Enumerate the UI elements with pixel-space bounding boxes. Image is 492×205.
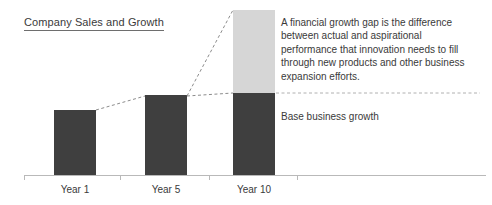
gap-description-text: A financial growth gap is the difference… bbox=[281, 16, 486, 83]
bar-year-10-gap bbox=[233, 10, 275, 93]
x-axis-label-year-10: Year 10 bbox=[224, 183, 284, 196]
gap-description-line: expansion efforts. bbox=[281, 70, 486, 83]
gap-description-line: between actual and aspirational bbox=[281, 29, 486, 42]
trend-segment-year1-to-year5 bbox=[96, 96, 145, 110]
bar-year-10-base bbox=[233, 93, 275, 175]
gap-description-line: performance that innovation needs to fil… bbox=[281, 43, 486, 56]
x-axis-tick bbox=[209, 176, 210, 180]
page-title: Company Sales and Growth bbox=[24, 15, 164, 31]
trend-segment-year5-to-year10-base bbox=[187, 93, 233, 96]
x-axis-line bbox=[24, 175, 486, 176]
bar-year-1-base bbox=[54, 110, 96, 175]
x-axis-tick bbox=[297, 176, 298, 180]
gap-description-line: A financial growth gap is the difference bbox=[281, 16, 486, 29]
x-axis-tick bbox=[120, 176, 121, 180]
slide-canvas: Company Sales and Growth Year 1 Year 5 Y… bbox=[0, 0, 492, 205]
gap-description-line: through new products and other business bbox=[281, 56, 486, 69]
trend-segment-aspirational bbox=[187, 10, 233, 96]
x-axis-tick bbox=[24, 176, 25, 180]
x-axis-label-year-5: Year 5 bbox=[136, 183, 196, 196]
base-business-growth-label: Base business growth bbox=[281, 110, 379, 123]
bar-year-5-base bbox=[145, 95, 187, 175]
x-axis-label-year-1: Year 1 bbox=[45, 183, 105, 196]
